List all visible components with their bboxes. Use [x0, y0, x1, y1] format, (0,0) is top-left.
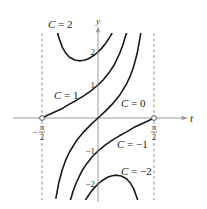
curve-label: C = −1: [117, 138, 148, 150]
open-point-icon: [152, 116, 157, 121]
solution-curve: [70, 118, 154, 201]
solution-curve: [42, 33, 127, 118]
curve-label: C = 2: [48, 18, 73, 30]
direction-field-figure: ty 21−1−2π2−π2 C = 2C = 1C = 0C = −1C = …: [0, 0, 207, 209]
x-tick-numerator: π: [40, 122, 45, 132]
y-tick-label: −1: [85, 146, 95, 156]
y-tick-label: 2: [91, 47, 96, 57]
x-tick-sign: −: [32, 127, 37, 137]
x-tick-denominator: 2: [40, 132, 45, 142]
open-point-icon: [40, 116, 45, 121]
axes: ty: [13, 16, 194, 202]
x-axis-label: t: [190, 112, 194, 124]
curve-label: C = 0: [121, 97, 146, 109]
y-tick-label: 1: [91, 80, 96, 90]
curve-label: C = −2: [121, 165, 152, 177]
curve-label: C = 1: [54, 89, 79, 101]
x-tick-numerator: π: [152, 122, 157, 132]
y-axis-label: y: [95, 16, 100, 26]
solution-curve: [57, 30, 112, 61]
curve-labels: C = 2C = 1C = 0C = −1C = −2: [48, 18, 152, 177]
y-tick-label: −2: [85, 179, 95, 189]
x-tick-denominator: 2: [152, 132, 157, 142]
